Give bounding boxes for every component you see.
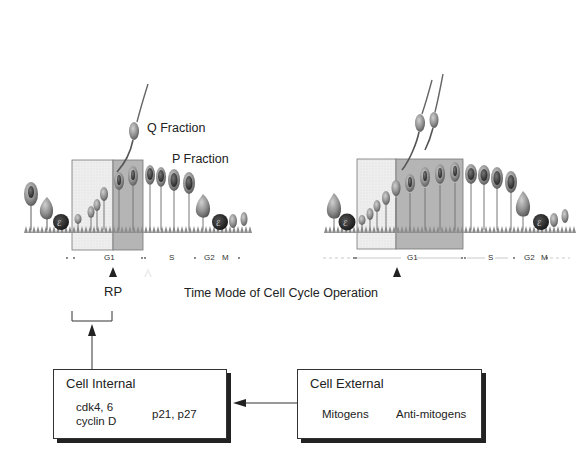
g1-early-region — [72, 160, 113, 250]
cell-internal-title: Cell Internal — [66, 376, 135, 391]
diagram-caption: Time Mode of Cell Cycle Operation — [184, 286, 378, 300]
left-panel: ℰ ℰ — [24, 84, 252, 277]
arrow-up-icon — [88, 324, 96, 336]
phase-s-left: S — [169, 253, 174, 262]
svg-text:ℰ: ℰ — [537, 219, 542, 228]
arrow-left-icon — [233, 399, 246, 407]
cdk-label: cdk4, 6 — [76, 400, 113, 414]
phase-s-right: S — [488, 253, 493, 262]
restriction-point-marker — [393, 267, 401, 277]
phase-m-left: M — [222, 253, 229, 262]
phase-g1-left: G1 — [104, 253, 115, 262]
phase-g2-right: G2 — [524, 253, 535, 262]
phase-g1-right: G1 — [407, 253, 418, 262]
restriction-point-marker — [109, 267, 117, 277]
q-fraction-label: Q Fraction — [147, 121, 205, 135]
right-panel: ℰ ℰ — [323, 74, 576, 277]
cki-label: p21, p27 — [152, 407, 197, 421]
s-cells-right — [465, 164, 517, 230]
cell-external-box: Cell External Mitogens Anti-mitogens — [297, 369, 482, 439]
phase-g2-left: G2 — [204, 253, 215, 262]
cell-external-title: Cell External — [310, 376, 384, 391]
s-cells-left — [145, 165, 195, 230]
cell-internal-box: Cell Internal cdk4, 6 cyclin D p21, p27 — [53, 369, 227, 439]
rp-label: RP — [104, 284, 122, 299]
svg-text:ℰ: ℰ — [216, 219, 221, 228]
mitogens-label: Mitogens — [322, 407, 369, 421]
anti-mitogens-label: Anti-mitogens — [396, 407, 466, 421]
svg-text:ℰ: ℰ — [343, 219, 348, 228]
phase-m-right: M — [541, 253, 548, 262]
svg-text:ℰ: ℰ — [57, 219, 62, 228]
cyclin-label: cyclin D — [76, 414, 116, 428]
p-fraction-label: P Fraction — [172, 152, 229, 166]
rp-bracket — [72, 311, 112, 321]
